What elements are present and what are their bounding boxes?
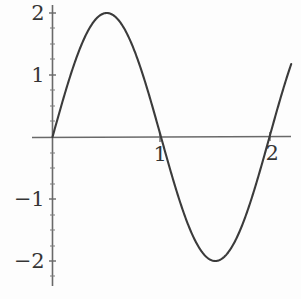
y-tick-label-minus-2: −2 xyxy=(10,251,44,272)
sine-curve-figure: 2 1 −1 −2 1 2 xyxy=(0,0,301,299)
y-tick-label-minus-1: −1 xyxy=(10,189,44,210)
y-tick-label-1: 1 xyxy=(10,65,44,86)
plot-area xyxy=(0,0,301,299)
y-tick-label-2: 2 xyxy=(10,3,44,24)
x-tick-label-1: 1 xyxy=(154,144,167,165)
x-tick-label-2: 2 xyxy=(266,143,279,164)
